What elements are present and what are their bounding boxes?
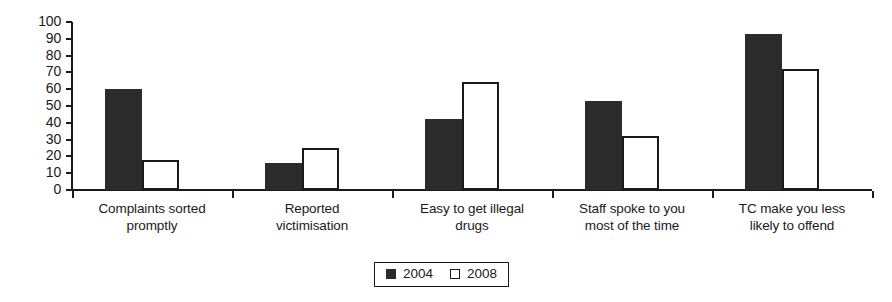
y-axis-tick-label: 10 — [46, 164, 61, 180]
x-axis-category-label: Easy to get illegaldrugs — [392, 200, 552, 234]
filled-square-icon — [386, 269, 396, 279]
x-axis-category-label-line: TC make you less — [712, 200, 872, 217]
bar-2008-1 — [142, 160, 179, 190]
legend-item-2008: 2008 — [450, 266, 497, 282]
legend-item-2004: 2004 — [386, 266, 433, 282]
x-axis-category-label: Reportedvictimisation — [232, 200, 392, 234]
bar-group — [425, 22, 499, 190]
plot-area — [72, 22, 872, 190]
y-axis-tick-label: 40 — [46, 114, 61, 130]
bar-group — [585, 22, 659, 190]
bar-2008-4 — [622, 136, 659, 190]
x-axis-category-label-line: Staff spoke to you — [552, 200, 712, 217]
y-axis-tick-label: 80 — [46, 47, 61, 63]
x-axis-category-label-line: Reported — [232, 200, 392, 217]
x-axis-category-label-line: Complaints sorted — [72, 200, 232, 217]
legend-label: 2008 — [467, 266, 497, 282]
x-axis-category-tick — [392, 191, 394, 198]
x-axis-category-tick — [552, 191, 554, 198]
legend-label: 2004 — [403, 266, 433, 282]
x-axis-category-label-line: drugs — [392, 217, 552, 234]
x-axis-category-tick — [712, 191, 714, 198]
x-axis-category-label-line: promptly — [72, 217, 232, 234]
y-axis-tick-label: 0 — [53, 181, 61, 197]
bar-group — [745, 22, 819, 190]
bar-chart: 1009080706050403020100 Complaints sorted… — [0, 0, 892, 302]
x-axis-category-label-line: likely to offend — [712, 217, 872, 234]
x-axis-category-label: Complaints sortedpromptly — [72, 200, 232, 234]
x-axis-category-label-line: Easy to get illegal — [392, 200, 552, 217]
y-axis-tick-label: 90 — [46, 30, 61, 46]
bar-2004-5 — [745, 34, 782, 190]
y-axis-tick-label: 50 — [46, 97, 61, 113]
bar-2008-5 — [782, 69, 819, 190]
bar-2004-3 — [425, 119, 462, 190]
y-axis-ticks: 1009080706050403020100 — [0, 22, 72, 190]
chart-legend: 20042008 — [374, 262, 509, 287]
bar-2004-2 — [265, 163, 302, 190]
bar-group — [265, 22, 339, 190]
bar-2004-1 — [105, 89, 142, 190]
y-axis-tick-label: 20 — [46, 147, 61, 163]
x-axis-category-label: TC make you lesslikely to offend — [712, 200, 872, 234]
x-axis-category-labels: Complaints sortedpromptlyReportedvictimi… — [72, 200, 872, 244]
y-axis-tick-label: 60 — [46, 80, 61, 96]
x-axis-category-tick — [232, 191, 234, 198]
y-axis-tick-label: 30 — [46, 131, 61, 147]
x-axis-category-label-line: most of the time — [552, 217, 712, 234]
x-axis-category-label-line: victimisation — [232, 217, 392, 234]
bar-2008-3 — [462, 82, 499, 190]
x-axis-category-tick — [72, 191, 74, 198]
bar-2008-2 — [302, 148, 339, 190]
y-axis-tick-label: 100 — [38, 13, 61, 29]
x-axis-category-label: Staff spoke to youmost of the time — [552, 200, 712, 234]
bar-group — [105, 22, 179, 190]
x-axis-category-tick — [872, 191, 874, 198]
y-axis-tick-label: 70 — [46, 63, 61, 79]
bar-2004-4 — [585, 101, 622, 190]
outlined-square-icon — [450, 269, 460, 279]
